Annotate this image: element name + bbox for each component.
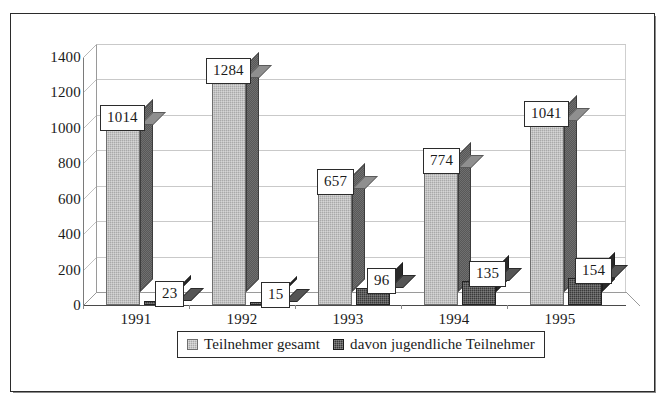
legend-entry-label: Teilnehmer gesamt bbox=[204, 337, 320, 352]
y-axis-tick-label: 400 bbox=[19, 227, 81, 242]
data-label-1992-series2: 15 bbox=[261, 282, 290, 308]
bar-1995-series1[interactable] bbox=[530, 121, 564, 305]
bar-front-face bbox=[106, 125, 140, 305]
y-axis-tick-label: 1200 bbox=[19, 85, 81, 100]
legend-entry-1[interactable]: Teilnehmer gesamt bbox=[187, 337, 320, 352]
x-axis-tick-label-1992: 1992 bbox=[189, 311, 295, 328]
x-axis-tick-mark bbox=[401, 305, 402, 309]
bar-chart: 0200400600800100012001400 10142312841565… bbox=[11, 14, 656, 393]
data-label-1994-series2: 135 bbox=[469, 261, 506, 287]
x-axis-tick-mark bbox=[295, 305, 296, 309]
bar-front-face bbox=[212, 78, 246, 305]
bar-1991-series1[interactable] bbox=[106, 125, 140, 305]
wall-corner-edge bbox=[83, 44, 97, 58]
data-label-1995-series2: 154 bbox=[575, 258, 612, 284]
x-axis-tick-label-1991: 1991 bbox=[83, 311, 189, 328]
bar-front-face bbox=[424, 168, 458, 305]
legend-swatch-dark-gray bbox=[333, 339, 344, 350]
x-axis-tick-label-1994: 1994 bbox=[401, 311, 507, 328]
x-axis-tick-mark bbox=[189, 305, 190, 309]
y-axis-tick-label: 200 bbox=[19, 263, 81, 278]
x-axis-tick-label-1995: 1995 bbox=[507, 311, 613, 328]
y-axis-line bbox=[83, 57, 84, 305]
x-axis-tick-label-1993: 1993 bbox=[295, 311, 401, 328]
bar-front-face bbox=[530, 121, 564, 305]
bar-1993-series1[interactable] bbox=[318, 189, 352, 305]
bar-side-face bbox=[246, 52, 259, 292]
y-axis-tick-label: 1000 bbox=[19, 121, 81, 136]
gridline-depth-connector bbox=[83, 221, 97, 235]
data-label-1992-series1: 1284 bbox=[206, 58, 251, 84]
y-axis-tick-label: 600 bbox=[19, 192, 81, 207]
y-axis-tick-label: 0 bbox=[19, 298, 81, 313]
bar-1994-series1[interactable] bbox=[424, 168, 458, 305]
data-label-1991-series2: 23 bbox=[155, 281, 184, 307]
gridline-depth-connector bbox=[83, 186, 97, 200]
gridline-depth-connector bbox=[83, 115, 97, 129]
data-label-1995-series1: 1041 bbox=[524, 101, 569, 127]
gridline bbox=[96, 79, 626, 80]
floor-left-edge bbox=[83, 292, 97, 306]
gridline bbox=[96, 44, 626, 45]
floor-right-edge bbox=[626, 292, 640, 306]
bar-1992-series1[interactable] bbox=[212, 78, 246, 305]
data-label-1993-series1: 657 bbox=[317, 169, 354, 195]
y-axis-tick-labels: 0200400600800100012001400 bbox=[11, 14, 81, 393]
data-label-1993-series2: 96 bbox=[367, 268, 396, 294]
y-axis-back-line bbox=[96, 44, 97, 292]
x-axis-tick-mark bbox=[83, 305, 84, 309]
legend-entry-label: davon jugendliche Teilnehmer bbox=[350, 337, 535, 352]
gridline-depth-connector bbox=[83, 79, 97, 93]
legend-swatch-light-gray bbox=[187, 339, 198, 350]
y-axis-tick-label: 800 bbox=[19, 156, 81, 171]
figure-frame: 0200400600800100012001400 10142312841565… bbox=[10, 13, 655, 392]
gridline-depth-connector bbox=[83, 257, 97, 271]
data-label-1991-series1: 1014 bbox=[100, 105, 145, 131]
data-label-1994-series1: 774 bbox=[423, 148, 460, 174]
x-axis-tick-mark bbox=[507, 305, 508, 309]
legend-entry-2[interactable]: davon jugendliche Teilnehmer bbox=[333, 337, 535, 352]
gridline-depth-connector bbox=[83, 150, 97, 164]
chart-legend: Teilnehmer gesamtdavon jugendliche Teiln… bbox=[177, 331, 545, 358]
y-axis-tick-label: 1400 bbox=[19, 50, 81, 65]
bar-front-face bbox=[318, 189, 352, 305]
